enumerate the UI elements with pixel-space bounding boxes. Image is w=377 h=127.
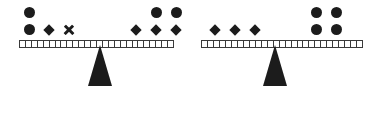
diamond-token <box>249 24 260 35</box>
diamond-token <box>170 24 181 35</box>
diamond-token <box>229 24 240 35</box>
token-slot <box>19 21 39 38</box>
token-row <box>126 21 186 38</box>
right-balance-left-pan <box>205 21 265 38</box>
left-balance-left-pan <box>19 4 79 38</box>
token-slot <box>245 21 265 38</box>
circle-token <box>24 7 35 18</box>
token-slot <box>166 4 186 21</box>
diamond-token <box>130 24 141 35</box>
token-slot <box>306 21 326 38</box>
circle-token <box>311 7 322 18</box>
balance-puzzle-canvas <box>0 0 377 127</box>
token-slot <box>19 4 39 21</box>
token-row <box>19 4 79 21</box>
token-slot <box>126 21 146 38</box>
token-slot <box>39 21 59 38</box>
token-slot <box>205 21 225 38</box>
token-slot <box>146 21 166 38</box>
diamond-token <box>43 24 54 35</box>
token-slot <box>166 21 186 38</box>
token-row <box>126 4 186 21</box>
circle-token <box>171 7 182 18</box>
token-slot <box>59 21 79 38</box>
left-balance-fulcrum <box>88 45 112 86</box>
left-balance <box>0 0 188 127</box>
token-row <box>306 21 346 38</box>
circle-token <box>151 7 162 18</box>
right-balance <box>188 0 377 127</box>
diamond-token <box>150 24 161 35</box>
circle-token <box>311 24 322 35</box>
right-balance-right-pan <box>306 4 346 38</box>
left-balance-right-pan <box>126 4 186 38</box>
token-row <box>205 21 265 38</box>
token-slot <box>326 21 346 38</box>
token-slot <box>146 4 166 21</box>
right-balance-fulcrum <box>263 45 287 86</box>
circle-token <box>331 24 342 35</box>
token-row <box>19 21 79 38</box>
token-slot <box>306 4 326 21</box>
token-row <box>306 4 346 21</box>
token-slot <box>326 4 346 21</box>
token-slot <box>225 21 245 38</box>
diamond-token <box>209 24 220 35</box>
cross-token <box>64 24 75 35</box>
circle-token <box>331 7 342 18</box>
circle-token <box>24 24 35 35</box>
